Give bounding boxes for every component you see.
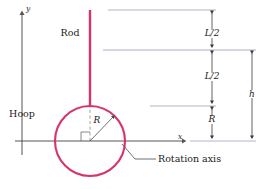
physics-figure: y x R Rod Hoop L/2 L/2 [0,0,269,189]
dimension-label-upper-half-rod: L/2 [204,28,220,38]
dimension-label-lower-half-rod: L/2 [204,71,220,81]
rotation-axis-leader-line [122,144,156,159]
hoop-label: Hoop [9,108,35,119]
coordinate-axes [15,12,185,155]
x-axis-label: x [178,132,183,141]
rotation-axis-callout [122,144,156,159]
reference-lines [103,10,256,141]
rod-label: Rod [61,27,80,38]
rotation-axis-label: Rotation axis [158,153,221,164]
dimension-upper-half-rod: L/2 [204,13,220,47]
y-axis-label: y [25,4,31,13]
dimension-chain: L/2 L/2 R [204,13,220,138]
dimension-label-total-height: h [249,89,255,99]
right-angle-marker [81,132,90,141]
figure-canvas: y x R Rod Hoop L/2 L/2 [0,0,269,189]
dimension-lower-half-rod: L/2 [204,53,220,103]
dimension-label-hoop-radius: R [208,114,216,124]
dimension-total-height: h [249,53,255,138]
radius-label: R [93,115,101,125]
dimension-hoop-radius: R [208,109,216,138]
